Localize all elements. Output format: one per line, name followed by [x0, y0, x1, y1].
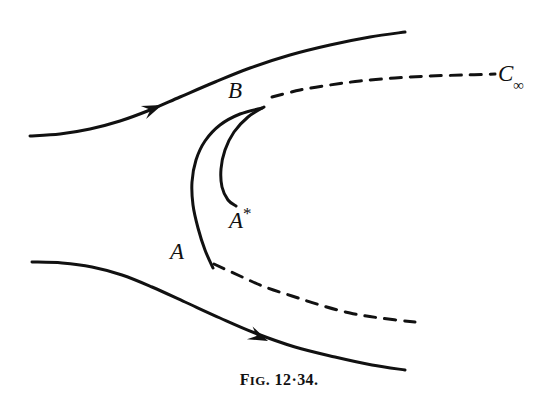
infinity-subscript: ∞ [513, 77, 524, 93]
caption-smallcaps: IG [250, 373, 266, 388]
caption-prefix: F [240, 371, 250, 388]
figure-container: B A* A C∞ FIG. 12·34. [0, 0, 558, 403]
figure-caption: FIG. 12·34. [0, 371, 558, 389]
streamline-diagram [0, 0, 558, 403]
curve-label-c-infinity: C∞ [498, 62, 524, 90]
caption-number: . 12·34. [266, 371, 319, 388]
point-label-a-star: A* [229, 205, 252, 232]
curve-label-c-base: C [498, 61, 513, 86]
point-label-a: A [170, 240, 184, 263]
point-label-a-star-base: A [229, 208, 243, 233]
point-label-b: B [228, 79, 242, 102]
asterisk-superscript: * [243, 204, 252, 223]
